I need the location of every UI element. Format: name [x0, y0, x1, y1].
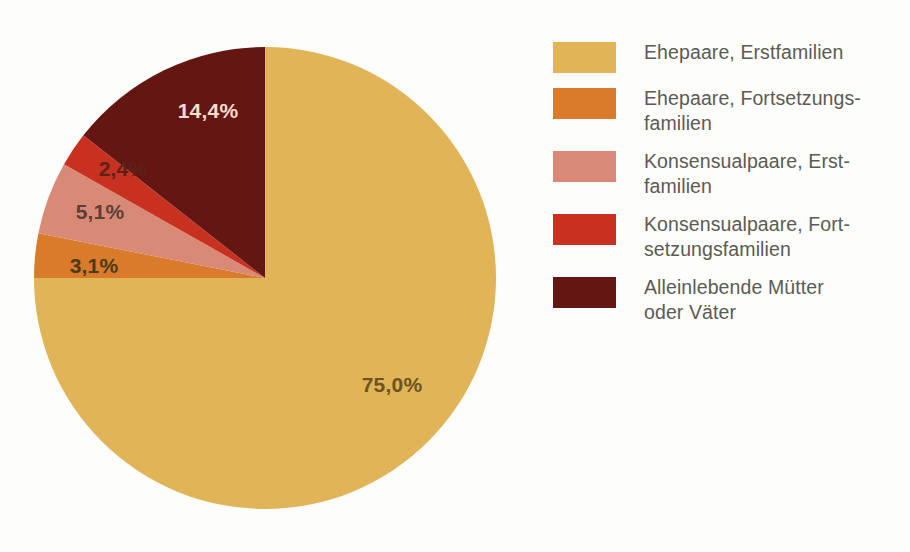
legend-swatch-alleinlebende-muetter-oder-vaeter — [553, 277, 616, 308]
legend-item-konsensualpaare-fortsetzungsfamilien: Konsensualpaare, Fort- setzungsfamilien — [553, 212, 903, 262]
legend-label-alleinlebende-muetter-oder-vaeter: Alleinlebende Mütter oder Väter — [644, 275, 824, 325]
legend-label-konsensualpaare-fortsetzungsfamilien: Konsensualpaare, Fort- setzungsfamilien — [644, 212, 850, 262]
legend-swatch-konsensualpaare-fortsetzungsfamilien — [553, 214, 616, 245]
legend-item-ehepaare-fortsetzungsfamilien: Ehepaare, Fortsetzungs- familien — [553, 86, 903, 136]
pie-slice-value-ehepaare-fortsetzungsfamilien: 3,1% — [70, 254, 119, 277]
legend-swatch-konsensualpaare-erstfamilien — [553, 151, 616, 182]
pie-slices — [34, 47, 496, 509]
pie-slice-value-ehepaare-erstfamilien: 75,0% — [362, 373, 423, 396]
legend-label-ehepaare-fortsetzungsfamilien: Ehepaare, Fortsetzungs- familien — [644, 86, 861, 136]
pie-svg: 75,0%3,1%5,1%2,4%14,4% — [0, 0, 540, 552]
pie-plot-area: 75,0%3,1%5,1%2,4%14,4% — [0, 0, 540, 552]
pie-slice-value-alleinlebende-muetter-oder-vaeter: 14,4% — [178, 99, 239, 122]
legend-item-ehepaare-erstfamilien: Ehepaare, Erstfamilien — [553, 40, 903, 73]
legend-swatch-ehepaare-erstfamilien — [553, 42, 616, 73]
legend-swatch-ehepaare-fortsetzungsfamilien — [553, 88, 616, 119]
pie-chart: 75,0%3,1%5,1%2,4%14,4% Ehepaare, Erstfam… — [0, 0, 910, 552]
legend-item-alleinlebende-muetter-oder-vaeter: Alleinlebende Mütter oder Väter — [553, 275, 903, 325]
pie-slice-value-konsensualpaare-fortsetzungsfamilien: 2,4% — [99, 157, 148, 180]
chart-legend: Ehepaare, ErstfamilienEhepaare, Fortsetz… — [553, 40, 903, 338]
legend-item-konsensualpaare-erstfamilien: Konsensualpaare, Erst- familien — [553, 149, 903, 199]
legend-label-ehepaare-erstfamilien: Ehepaare, Erstfamilien — [644, 40, 843, 65]
pie-slice-value-konsensualpaare-erstfamilien: 5,1% — [76, 200, 125, 223]
legend-label-konsensualpaare-erstfamilien: Konsensualpaare, Erst- familien — [644, 149, 850, 199]
